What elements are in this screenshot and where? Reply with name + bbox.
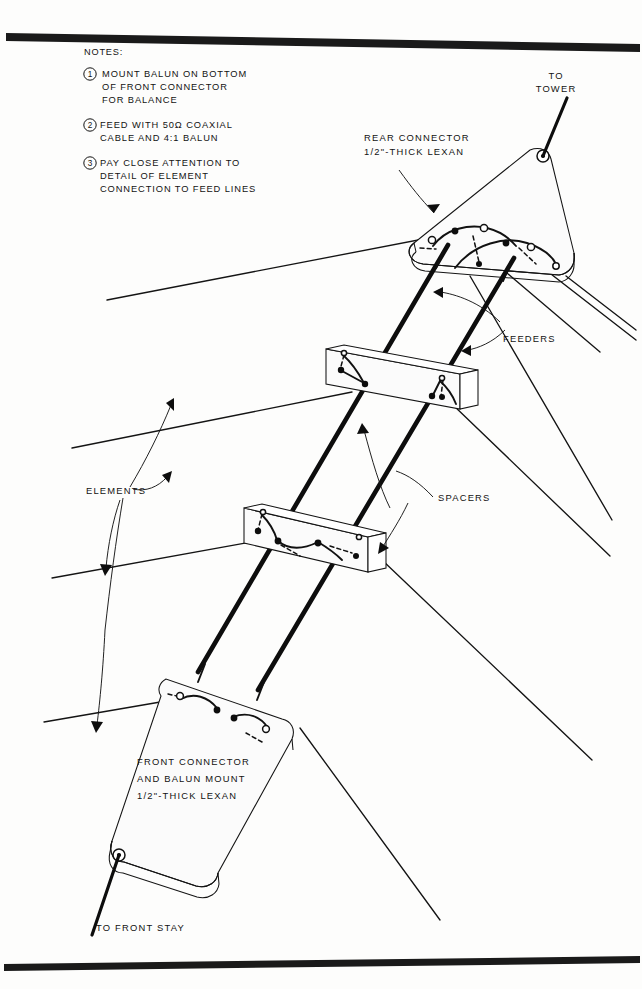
front-connector-plate <box>109 679 293 898</box>
note-3-line-3: CONNECTION TO FEED LINES <box>100 184 256 194</box>
note-3-line-1: PAY CLOSE ATTENTION TO <box>100 158 240 168</box>
note-2-line-1: FEED WITH 50Ω COAXIAL <box>100 120 233 130</box>
note-1-number: 1 <box>88 70 93 79</box>
notes-heading: NOTES: <box>84 47 123 57</box>
bottom-border-rule <box>4 956 640 971</box>
spacers-label: SPACERS <box>438 492 491 503</box>
note-1-line-3: FOR BALANCE <box>102 95 178 105</box>
notes-block: NOTES: 1 MOUNT BALUN ON BOTTOM OF FRONT … <box>84 47 256 194</box>
to-front-stay-label: TO FRONT STAY <box>96 922 185 933</box>
note-3-number: 3 <box>88 159 93 168</box>
element-wires-left <box>44 230 470 722</box>
antenna-assembly-diagram: NOTES: 1 MOUNT BALUN ON BOTTOM OF FRONT … <box>0 0 642 989</box>
rear-connector-plate <box>409 149 574 282</box>
note-1-line-2: OF FRONT CONNECTOR <box>102 82 228 92</box>
note-2-number: 2 <box>88 121 93 130</box>
feeder-lines <box>198 245 514 690</box>
tower-stay-line <box>543 98 567 156</box>
note-3-line-2: DETAIL OF ELEMENT <box>100 171 209 181</box>
feeders-label: FEEDERS <box>503 333 556 344</box>
front-connector-label-line-3: 1/2"-THICK LEXAN <box>137 790 237 801</box>
elements-label: ELEMENTS <box>86 485 146 496</box>
to-tower-label-line-1: TO <box>548 70 563 81</box>
note-1-line-1: MOUNT BALUN ON BOTTOM <box>102 69 247 79</box>
rear-connector-label-line-2: 1/2"-THICK LEXAN <box>364 146 464 157</box>
to-tower-label-line-2: TOWER <box>536 83 577 94</box>
front-connector-label-line-2: AND BALUN MOUNT <box>137 773 246 784</box>
drawing-page: NOTES: 1 MOUNT BALUN ON BOTTOM OF FRONT … <box>0 0 642 989</box>
note-2-line-2: CABLE AND 4:1 BALUN <box>100 133 218 143</box>
rear-connector-label-line-1: REAR CONNECTOR <box>364 132 470 143</box>
front-connector-label-line-1: FRONT CONNECTOR <box>137 756 250 767</box>
